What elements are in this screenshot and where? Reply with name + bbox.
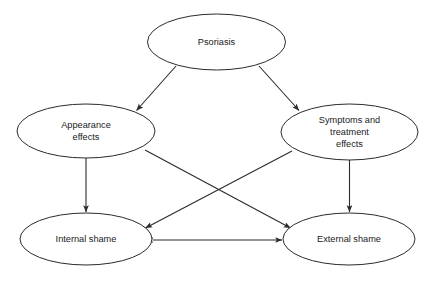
node-symptoms-and-treatment-effects-label-line1: Symptoms and [319, 115, 380, 125]
node-appearance-effects-ellipse [17, 104, 155, 158]
node-appearance-effects-label-line2: effects [73, 132, 100, 142]
node-psoriasis[interactable]: Psoriasis [148, 14, 286, 70]
node-internal-shame-label: Internal shame [56, 234, 117, 244]
node-symptoms-and-treatment-effects-label-line3: effects [336, 139, 363, 149]
edge-psoriasis-to-appearance-effects [137, 66, 177, 111]
node-external-shame-label: External shame [317, 234, 381, 244]
node-psoriasis-label: Psoriasis [198, 37, 236, 47]
node-appearance-effects[interactable]: Appearance effects [17, 104, 155, 158]
diagram-canvas: Psoriasis Appearance effects Symptoms an… [0, 0, 435, 283]
node-internal-shame[interactable]: Internal shame [20, 213, 152, 265]
node-symptoms-and-treatment-effects[interactable]: Symptoms and treatment effects [281, 104, 418, 160]
node-symptoms-and-treatment-effects-label-line2: treatment [330, 127, 369, 137]
node-appearance-effects-label-line1: Appearance [61, 120, 111, 130]
node-external-shame[interactable]: External shame [283, 213, 415, 265]
diagram-svg: Psoriasis Appearance effects Symptoms an… [0, 0, 435, 283]
edge-psoriasis-to-symptoms-and-treatment-effects [259, 66, 299, 111]
